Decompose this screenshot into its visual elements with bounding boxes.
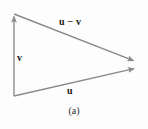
vector-diagram-figure: u − v v u (a) <box>0 0 148 129</box>
figure-caption: (a) <box>0 106 148 116</box>
vector-label-u-minus-v: u − v <box>59 17 81 27</box>
vector-label-v: v <box>17 53 22 63</box>
vector-u-line <box>14 69 134 96</box>
vector-label-u: u <box>67 86 73 96</box>
